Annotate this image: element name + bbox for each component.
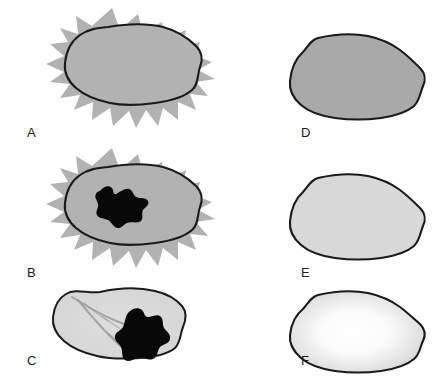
panel-label-e: E (301, 265, 310, 280)
panel-label-b: B (27, 265, 36, 280)
panel-c-core-outline (53, 288, 186, 358)
panel-figure-canvas: A B C D E F (0, 0, 438, 387)
figure-root: A B C D E F (0, 0, 438, 387)
panel-label-d: D (301, 125, 311, 140)
panel-a-core-outline (65, 24, 202, 105)
panel-label-f: F (301, 353, 309, 368)
panel-label-a: A (27, 125, 36, 140)
panel-label-c: C (27, 353, 37, 368)
